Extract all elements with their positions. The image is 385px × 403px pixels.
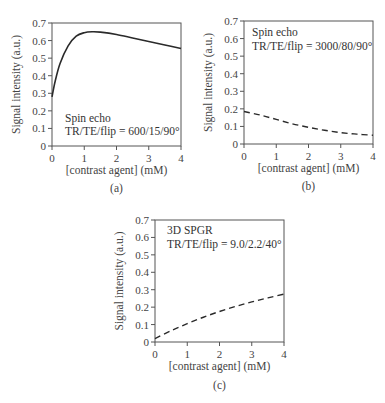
y-tick-label: 0.6 bbox=[224, 33, 238, 45]
x-tick-label: 0 bbox=[152, 348, 158, 360]
y-tick-label: 0 bbox=[41, 140, 47, 152]
x-tick-label: 0 bbox=[241, 150, 247, 162]
y-tick-label: 0.3 bbox=[224, 85, 238, 97]
x-tick-label: 4 bbox=[178, 152, 184, 164]
y-tick-label: 0.3 bbox=[135, 284, 149, 296]
y-tick-label: 0.4 bbox=[135, 266, 149, 278]
chart-b: 00.10.20.30.40.50.60.701234 Spin echo TR… bbox=[202, 15, 376, 193]
figure: 00.10.20.30.40.50.60.701234 Spin echo TR… bbox=[0, 0, 385, 403]
x-tick-label: 3 bbox=[249, 348, 255, 360]
y-tick-label: 0.3 bbox=[32, 87, 46, 99]
chart-b-line bbox=[244, 111, 373, 135]
y-tick-label: 0.4 bbox=[224, 68, 238, 80]
chart-a-ylabel: Signal intensity (a.u.) bbox=[10, 35, 23, 134]
chart-a-annotation-line2: TR/TE/flip = 600/15/90° bbox=[65, 125, 180, 138]
chart-c-ylabel: Signal intensity (a.u.) bbox=[113, 231, 126, 330]
x-tick-label: 4 bbox=[370, 150, 376, 162]
chart-a-xlabel: [contrast agent] (mM) bbox=[66, 164, 168, 177]
y-tick-label: 0.5 bbox=[224, 50, 238, 62]
y-tick-label: 0.6 bbox=[135, 231, 149, 243]
y-tick-label: 0 bbox=[144, 336, 150, 348]
chart-a-line bbox=[52, 32, 181, 97]
y-tick-label: 0.2 bbox=[135, 301, 149, 313]
chart-c-panel-label: (c) bbox=[213, 379, 226, 392]
x-tick-label: 3 bbox=[146, 152, 152, 164]
y-tick-label: 0 bbox=[233, 138, 239, 150]
x-tick-label: 2 bbox=[306, 150, 312, 162]
y-tick-label: 0.4 bbox=[32, 70, 46, 82]
y-tick-label: 0.5 bbox=[135, 249, 149, 261]
chart-a-panel-label: (a) bbox=[110, 182, 123, 195]
chart-b-axes: 00.10.20.30.40.50.60.701234 bbox=[224, 15, 376, 162]
y-tick-label: 0.7 bbox=[135, 214, 149, 226]
chart-c-annotation-line2: TR/TE/flip = 9.0/2.2/40° bbox=[167, 238, 282, 251]
chart-b-panel-label: (b) bbox=[302, 180, 316, 193]
y-tick-label: 0.2 bbox=[224, 103, 238, 115]
y-tick-label: 0.1 bbox=[224, 120, 238, 132]
chart-c-annotation-line1: 3D SPGR bbox=[167, 224, 213, 236]
x-tick-label: 1 bbox=[185, 348, 191, 360]
chart-a-axes: 00.10.20.30.40.50.60.701234 bbox=[32, 17, 184, 164]
y-tick-label: 0.6 bbox=[32, 35, 46, 47]
chart-b-ylabel: Signal intensity (a.u.) bbox=[202, 33, 215, 132]
chart-a: 00.10.20.30.40.50.60.701234 Spin echo TR… bbox=[10, 17, 184, 195]
x-tick-label: 1 bbox=[274, 150, 280, 162]
chart-c-xlabel: [contrast agent] (mM) bbox=[169, 360, 271, 373]
y-tick-label: 0.1 bbox=[32, 122, 46, 134]
y-tick-label: 0.7 bbox=[32, 17, 46, 29]
chart-b-annotation-line2: TR/TE/flip = 3000/80/90° bbox=[252, 40, 373, 53]
y-tick-label: 0.1 bbox=[135, 319, 149, 331]
chart-c-line bbox=[155, 294, 284, 338]
y-tick-label: 0.7 bbox=[224, 15, 238, 27]
x-tick-label: 3 bbox=[338, 150, 344, 162]
chart-c: 00.10.20.30.40.50.60.701234 3D SPGR TR/T… bbox=[113, 214, 287, 392]
chart-b-annotation-line1: Spin echo bbox=[252, 26, 298, 39]
x-tick-label: 4 bbox=[281, 348, 287, 360]
chart-a-annotation-line1: Spin echo bbox=[65, 112, 111, 125]
chart-b-xlabel: [contrast agent] (mM) bbox=[258, 162, 360, 175]
y-tick-label: 0.5 bbox=[32, 52, 46, 64]
y-tick-label: 0.2 bbox=[32, 105, 46, 117]
x-tick-label: 2 bbox=[114, 152, 120, 164]
x-tick-label: 2 bbox=[217, 348, 223, 360]
x-tick-label: 0 bbox=[49, 152, 55, 164]
x-tick-label: 1 bbox=[82, 152, 88, 164]
